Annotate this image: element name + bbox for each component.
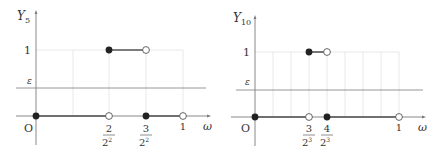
open-point: [324, 49, 331, 56]
closed-point: [306, 49, 313, 56]
open-point: [143, 47, 150, 54]
epsilon-label: ε: [245, 77, 250, 87]
grid-lines: [36, 50, 183, 116]
figure: Y5 1 ε O ω 2 22 3 22 1: [0, 0, 437, 155]
x-tick-4-over-2cubed: 4 23: [320, 123, 333, 148]
y-tick-one: 1: [243, 46, 250, 59]
svg-text:23: 23: [302, 136, 312, 148]
open-point: [180, 113, 187, 120]
x-tick-one: 1: [180, 121, 186, 132]
open-point: [106, 113, 113, 120]
x-axis-arrow-icon: [207, 115, 211, 118]
svg-text:3: 3: [143, 123, 149, 134]
svg-text:2: 2: [106, 123, 112, 134]
x-tick-3-over-2sq: 3 22: [139, 123, 152, 148]
y-axis-label: Y5: [17, 9, 30, 25]
origin-label: O: [24, 122, 33, 135]
y-axis-label: Y10: [233, 11, 251, 27]
origin-label: O: [241, 122, 250, 135]
open-point: [306, 114, 313, 121]
x-tick-one: 1: [396, 122, 402, 133]
y-tick-one: 1: [24, 44, 31, 57]
x-tick-2-over-2sq: 2 22: [102, 123, 115, 148]
grid-lines: [255, 52, 399, 117]
svg-text:4: 4: [324, 123, 330, 134]
closed-point: [252, 114, 259, 121]
x-axis-label: ω: [418, 121, 427, 134]
svg-text:23: 23: [320, 136, 330, 148]
closed-point: [143, 113, 150, 120]
closed-point: [324, 114, 331, 121]
chart-y5: Y5 1 ε O ω 2 22 3 22 1: [16, 9, 212, 148]
svg-text:22: 22: [102, 136, 112, 148]
y-axis-arrow-icon: [254, 15, 257, 19]
open-point: [396, 114, 403, 121]
closed-point: [33, 113, 40, 120]
x-axis-label: ω: [203, 120, 212, 133]
x-axis-arrow-icon: [422, 116, 426, 119]
svg-text:3: 3: [306, 123, 312, 134]
svg-text:22: 22: [139, 136, 149, 148]
chart-y10: Y10 1 ε O ω 3 23 4 23 1: [231, 11, 427, 148]
x-tick-3-over-2cubed: 3 23: [302, 123, 315, 148]
y-axis-arrow-icon: [35, 10, 38, 14]
epsilon-label: ε: [27, 76, 32, 86]
closed-point: [106, 47, 113, 54]
